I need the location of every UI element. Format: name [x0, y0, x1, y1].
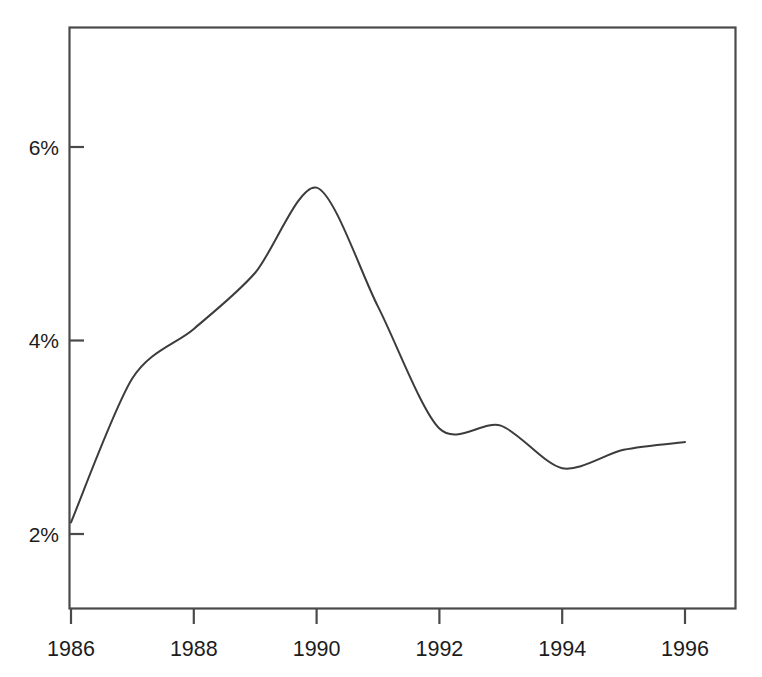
x-axis-tick-label: 1986	[47, 637, 95, 661]
data-series-group	[71, 187, 685, 522]
x-axis-tick-label: 1994	[538, 637, 586, 661]
y-axis-tick-label: 6%	[29, 136, 59, 159]
plot-frame-rect	[70, 28, 736, 609]
x-axis-tick-labels: 198619881990199219941996	[47, 637, 709, 661]
line-chart: 6%4%2% 198619881990199219941996	[0, 0, 762, 677]
plot-frame	[70, 28, 736, 609]
x-axis-tick-label: 1996	[661, 637, 709, 661]
y-axis-tick-label: 2%	[29, 523, 59, 546]
y-axis-tick-labels: 6%4%2%	[29, 136, 59, 546]
x-axis-tick-label: 1988	[170, 637, 218, 661]
y-axis-tick-label: 4%	[29, 329, 59, 352]
y-axis-ticks	[70, 147, 85, 534]
data-line-series-1	[71, 187, 685, 522]
chart-container: 6%4%2% 198619881990199219941996	[0, 0, 762, 677]
x-axis-tick-label: 1992	[415, 637, 463, 661]
x-axis-tick-label: 1990	[293, 637, 341, 661]
x-axis-ticks	[71, 609, 685, 625]
